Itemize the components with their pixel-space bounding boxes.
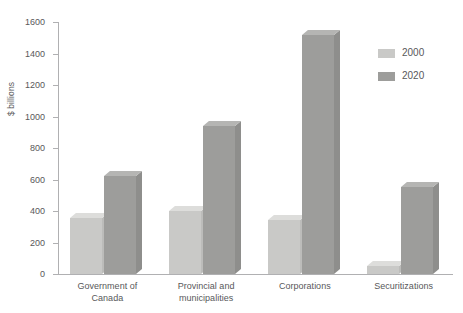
- legend-item-label: 2000: [402, 48, 424, 58]
- bar-2020-securitizations[interactable]: [401, 187, 433, 274]
- category-label-line: Canada: [58, 292, 157, 304]
- bar-top-face: [70, 213, 108, 218]
- legend-swatch-icon: [378, 72, 395, 81]
- bar-top-face: [401, 182, 439, 187]
- bar-2020-provincial-and-municipalities[interactable]: [203, 126, 235, 274]
- y-axis-tick-label: 1200: [25, 81, 45, 90]
- bar-top-face: [268, 215, 306, 220]
- legend: 2000 2020: [378, 45, 424, 91]
- legend-swatch-icon: [378, 49, 395, 58]
- bar-side-face: [136, 171, 142, 274]
- y-axis-tick-label: 800: [30, 144, 45, 153]
- category-label-line: Securitizations: [354, 280, 453, 292]
- y-axis-tick-label: 600: [30, 175, 45, 184]
- bar-2000-provincial-and-municipalities[interactable]: [169, 211, 201, 274]
- bar-top-face: [367, 261, 405, 266]
- y-axis-tick: 1200: [53, 85, 58, 86]
- bar-top-face: [169, 206, 207, 211]
- bar-front-face: [367, 266, 399, 274]
- bar-top-face: [203, 121, 241, 126]
- bar-2000-government-of-canada[interactable]: [70, 218, 102, 274]
- bar-top-face: [302, 30, 340, 35]
- legend-item-label: 2020: [402, 71, 424, 81]
- y-axis-tick: 800: [53, 148, 58, 149]
- bar-front-face: [302, 35, 334, 274]
- bar-front-face: [70, 218, 102, 274]
- bar-front-face: [169, 211, 201, 274]
- bar-front-face: [203, 126, 235, 274]
- y-axis-tick-label: 0: [40, 270, 45, 279]
- bar-group: [70, 22, 136, 274]
- bar-2000-corporations[interactable]: [268, 220, 300, 274]
- bar-chart: $ billions 02004006008001000120014001600…: [0, 0, 463, 313]
- bar-side-face: [334, 30, 340, 274]
- y-axis-label: $ billions: [6, 82, 16, 116]
- category-label-line: municipalities: [157, 292, 256, 304]
- y-axis-tick-label: 1400: [25, 49, 45, 58]
- y-axis-tick-label: 400: [30, 207, 45, 216]
- bar-front-face: [268, 220, 300, 274]
- bar-group: [268, 22, 334, 274]
- bar-front-face: [401, 187, 433, 274]
- y-axis-tick: 1000: [53, 117, 58, 118]
- x-axis-line: [58, 274, 453, 275]
- category-label-line: Corporations: [256, 280, 355, 292]
- y-axis-tick: 400: [53, 211, 58, 212]
- category-label-line: Provincial and: [157, 280, 256, 292]
- bar-side-face: [235, 121, 241, 274]
- bar-2020-government-of-canada[interactable]: [104, 176, 136, 274]
- legend-item[interactable]: 2000: [378, 45, 424, 61]
- bar-side-face: [433, 182, 439, 274]
- y-axis-tick: 1400: [53, 54, 58, 55]
- bar-2020-corporations[interactable]: [302, 35, 334, 274]
- y-axis-tick-label: 200: [30, 238, 45, 247]
- y-axis-tick: 200: [53, 243, 58, 244]
- bar-2000-securitizations[interactable]: [367, 266, 399, 274]
- y-axis-tick-label: 1000: [25, 112, 45, 121]
- y-axis-tick: 0: [53, 274, 58, 275]
- bar-front-face: [104, 176, 136, 274]
- category-label: Corporations: [256, 280, 355, 292]
- y-axis-tick-label: 1600: [25, 18, 45, 27]
- y-axis-line: [58, 22, 59, 275]
- bar-group: [169, 22, 235, 274]
- category-label: Government ofCanada: [58, 280, 157, 304]
- legend-item[interactable]: 2020: [378, 68, 424, 84]
- y-axis-tick: 1600: [53, 22, 58, 23]
- category-label: Securitizations: [354, 280, 453, 292]
- category-label-line: Government of: [58, 280, 157, 292]
- category-label: Provincial andmunicipalities: [157, 280, 256, 304]
- y-axis-tick: 600: [53, 180, 58, 181]
